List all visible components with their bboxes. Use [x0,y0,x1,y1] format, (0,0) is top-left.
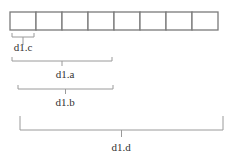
memory-array [10,12,218,30]
brace-d1c: d1.c [12,33,34,53]
array-cell [10,12,36,30]
brace-line [12,57,112,66]
brace-d1a: d1.a [12,57,112,80]
array-cell [166,12,192,30]
brace-label: d1.b [55,96,75,108]
brace-label: d1.c [14,41,33,53]
array-cell [62,12,88,30]
array-cell [36,12,62,30]
brace-line [20,116,223,137]
brace-annotations: d1.cd1.ad1.bd1.d [12,33,223,153]
array-diagram: d1.cd1.ad1.bd1.d [0,0,234,166]
array-cell [114,12,140,30]
brace-label: d1.a [56,68,75,80]
array-cell [88,12,114,30]
array-cell [140,12,166,30]
brace-d1d: d1.d [20,116,223,153]
brace-d1b: d1.b [18,85,113,108]
brace-line [18,85,113,94]
array-cell [192,12,218,30]
brace-label: d1.d [111,141,131,153]
